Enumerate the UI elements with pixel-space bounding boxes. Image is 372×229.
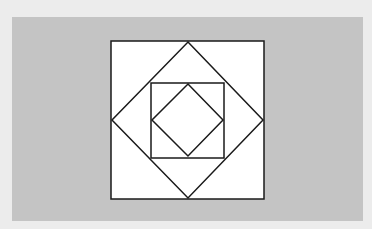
nested-squares-diagram [0,0,372,229]
outer-square [111,41,264,199]
